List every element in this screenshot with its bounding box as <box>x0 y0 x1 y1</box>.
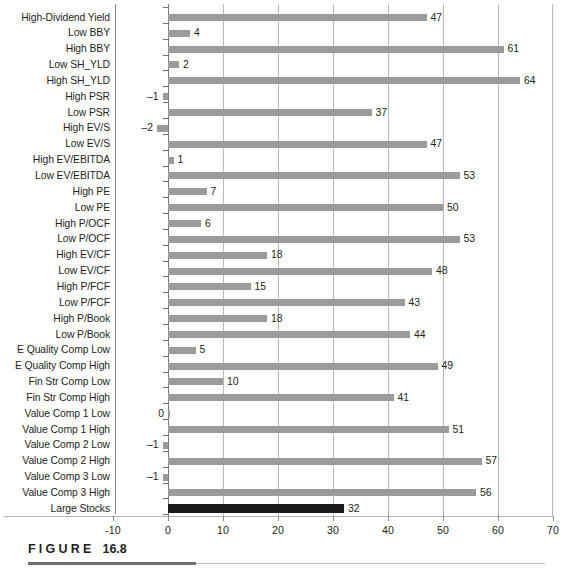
bar-value-label: 49 <box>442 360 454 371</box>
bar <box>168 220 201 227</box>
bar-value-label: –2 <box>141 122 153 133</box>
category-label: High P/Book <box>53 313 110 324</box>
y-axis-tick <box>163 387 168 388</box>
bar-value-label: –1 <box>147 471 159 482</box>
bar <box>168 46 504 53</box>
category-label: High BBY <box>66 43 110 54</box>
bar-value-label: 5 <box>200 344 206 355</box>
category-label: Low EV/CF <box>58 265 110 276</box>
y-axis-tick <box>163 356 168 357</box>
y-axis-tick <box>163 435 168 436</box>
y-axis-tick <box>163 308 168 309</box>
bar <box>168 157 174 164</box>
bar <box>168 109 372 116</box>
y-axis-tick <box>163 292 168 293</box>
bar-value-label: 43 <box>409 297 421 308</box>
x-axis-label: 70 <box>533 524 573 536</box>
bar-value-label: 7 <box>211 186 217 197</box>
y-axis-tick <box>163 483 168 484</box>
y-axis-tick <box>163 7 168 8</box>
bar-value-label: 53 <box>464 170 476 181</box>
x-axis-label: 20 <box>258 524 298 536</box>
y-axis-tick <box>163 102 168 103</box>
y-axis-tick <box>163 245 168 246</box>
bar <box>168 378 223 385</box>
category-label: High EV/EBITDA <box>33 154 110 165</box>
bar-value-label: 18 <box>271 313 283 324</box>
category-label: Value Comp 2 Low <box>25 439 110 450</box>
caption-rule-dark <box>28 562 196 565</box>
category-label: High P/FCF <box>57 281 110 292</box>
category-label: High EV/CF <box>56 249 110 260</box>
bar-value-label: 50 <box>447 202 459 213</box>
bar-value-label: 2 <box>183 59 189 70</box>
x-axis-label: 30 <box>313 524 353 536</box>
x-axis-tick <box>553 516 554 521</box>
bar <box>168 204 443 211</box>
bar-value-label: 1 <box>178 154 184 165</box>
x-axis-label: 10 <box>203 524 243 536</box>
bar <box>168 14 427 21</box>
y-axis-tick <box>163 86 168 87</box>
bar <box>168 315 267 322</box>
bar <box>168 331 410 338</box>
bar-value-label: 61 <box>508 43 520 54</box>
x-axis-tick <box>498 516 499 521</box>
bar <box>168 426 449 433</box>
bar-chart: 47461264–137–247153750653184815431844549… <box>0 0 573 536</box>
bar <box>163 474 169 481</box>
category-label: Low SH_YLD <box>49 59 110 70</box>
category-label: Value Comp 1 Low <box>25 408 110 419</box>
figure-caption: FIGURE16.8 <box>0 542 573 574</box>
figure-caption-number: 16.8 <box>102 542 126 556</box>
category-label: Low P/FCF <box>59 297 110 308</box>
category-label: Value Comp 1 High <box>22 424 110 435</box>
category-label: Value Comp 3 High <box>22 487 110 498</box>
bar <box>168 458 482 465</box>
y-axis-tick <box>163 118 168 119</box>
bar <box>168 363 438 370</box>
bar-value-label: 0 <box>152 408 164 419</box>
bar <box>168 252 267 259</box>
y-axis-tick <box>163 70 168 71</box>
x-axis-label: 0 <box>148 524 188 536</box>
y-axis-tick <box>163 39 168 40</box>
x-axis-tick <box>388 516 389 521</box>
x-axis-label: 60 <box>478 524 518 536</box>
bar-value-label: 44 <box>414 329 426 340</box>
bar-value-label: 18 <box>271 249 283 260</box>
y-axis-tick <box>163 134 168 135</box>
category-label: High-Dividend Yield <box>21 12 110 23</box>
figure-caption-word: FIGURE <box>28 542 94 556</box>
category-label: Low EV/S <box>65 138 110 149</box>
category-label: E Quality Comp High <box>15 360 110 371</box>
category-label: High SH_YLD <box>46 75 110 86</box>
y-axis-tick <box>163 150 168 151</box>
bar <box>163 442 169 449</box>
bar <box>168 299 405 306</box>
bar-value-label: 10 <box>227 376 239 387</box>
bar-value-label: 6 <box>205 218 211 229</box>
bar-value-label: 47 <box>431 138 443 149</box>
category-label: Low P/Book <box>56 329 110 340</box>
y-axis-tick <box>163 166 168 167</box>
y-axis-tick <box>163 261 168 262</box>
x-axis-label: 50 <box>423 524 463 536</box>
bar <box>168 394 394 401</box>
bar <box>168 347 196 354</box>
x-axis-tick <box>223 516 224 521</box>
y-axis-tick <box>163 55 168 56</box>
bar <box>168 504 344 513</box>
y-axis-tick <box>163 229 168 230</box>
y-axis-tick <box>163 181 168 182</box>
axis-label-separator <box>115 4 116 514</box>
category-label: Value Comp 3 Low <box>25 471 110 482</box>
y-axis-tick <box>163 197 168 198</box>
bar-value-label: 48 <box>436 265 448 276</box>
category-label: Fin Str Comp High <box>26 392 110 403</box>
bar-value-label: 56 <box>480 487 492 498</box>
y-axis-tick <box>163 467 168 468</box>
y-axis-tick <box>163 324 168 325</box>
bar <box>168 141 427 148</box>
bar-value-label: 47 <box>431 12 443 23</box>
